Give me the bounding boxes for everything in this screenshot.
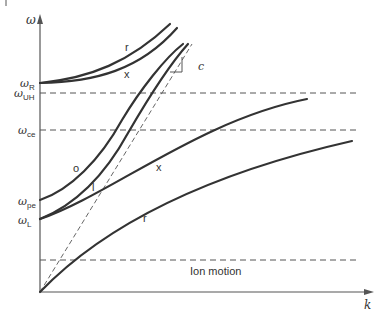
light-line-label: c (198, 60, 204, 73)
label-x-lower: x (156, 161, 162, 173)
dispersion-diagram: ω k ω R ω UH ω ce ω pe ω L c (0, 0, 387, 323)
x-axis (40, 289, 374, 295)
svg-text:pe: pe (27, 201, 36, 210)
label-r-upper: r (125, 41, 129, 53)
svg-text:ce: ce (27, 130, 36, 139)
svg-text:UH: UH (23, 93, 35, 102)
label-omega-ce: ω ce (18, 124, 36, 139)
svg-text:L: L (27, 220, 32, 229)
svg-text:ω: ω (18, 124, 27, 137)
label-omega-pe: ω pe (18, 195, 36, 210)
svg-text:R: R (29, 83, 35, 92)
label-r-lower: r (143, 212, 147, 224)
svg-text:ω: ω (18, 214, 27, 227)
y-axis-arrow-icon (37, 14, 43, 24)
svg-text:ω: ω (18, 195, 27, 208)
x-axis-arrow-icon (364, 289, 374, 295)
y-axis (37, 14, 43, 292)
ion-motion-label: Ion motion (190, 265, 241, 277)
label-o: o (73, 162, 79, 174)
label-omega-l: ω L (18, 214, 32, 229)
label-x-upper: x (124, 68, 130, 80)
svg-text:ω: ω (14, 87, 23, 100)
x-axis-label: k (364, 298, 371, 312)
curve-o-wave (40, 44, 183, 200)
label-l: l (92, 181, 94, 193)
y-axis-label: ω (26, 13, 36, 27)
